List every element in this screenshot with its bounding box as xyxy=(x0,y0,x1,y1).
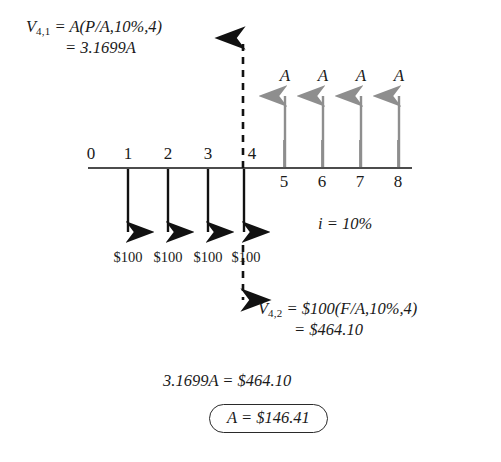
axis-label-period-5: 5 xyxy=(273,172,295,192)
axis-label-period-1: 1 xyxy=(117,144,139,164)
equation-v42-subscript: 4,2 xyxy=(268,307,282,319)
equation-v41-line1: V4,1 = A(P/A,10%,4) xyxy=(26,18,162,38)
axis-label-period-0: 0 xyxy=(80,144,102,164)
outflow-arrows xyxy=(128,169,244,232)
axis-label-period-7: 7 xyxy=(349,172,371,192)
equation-solve-line: 3.1699A = $464.10 xyxy=(163,372,291,391)
interest-rate-label: i = 10% xyxy=(318,215,372,234)
equation-v41-line2: = 3.1699A xyxy=(65,39,136,58)
axis-label-period-4: 4 xyxy=(241,144,263,164)
diagram-vector-layer xyxy=(0,0,501,462)
axis-label-period-8: 8 xyxy=(387,172,409,192)
inflow-label-period-7: A xyxy=(349,66,373,86)
outflow-label-period-4: $100 xyxy=(221,249,271,266)
cash-flow-diagram: V4,1 = A(P/A,10%,4) = 3.1699A 0 1 2 3 4 … xyxy=(0,0,501,462)
axis-label-period-2: 2 xyxy=(157,144,179,164)
equation-v42-rhs: = $100(F/A,10%,4) xyxy=(282,299,417,318)
axis-label-period-3: 3 xyxy=(197,144,219,164)
equation-v42-lhs: V xyxy=(258,299,268,318)
timeline-ticks-right xyxy=(284,140,398,168)
inflow-label-period-8: A xyxy=(387,66,411,86)
answer-box: A = $146.41 xyxy=(209,404,328,433)
inflow-label-period-6: A xyxy=(311,66,335,86)
equation-v42-line1: V4,2 = $100(F/A,10%,4) xyxy=(258,300,417,320)
axis-label-period-6: 6 xyxy=(311,172,333,192)
inflow-arrows xyxy=(285,96,399,167)
equation-v41-rhs: = A(P/A,10%,4) xyxy=(50,17,162,36)
equation-v41-subscript: 4,1 xyxy=(36,25,50,37)
equation-v42-line2: = $464.10 xyxy=(294,321,363,340)
inflow-label-period-5: A xyxy=(273,66,297,86)
equation-v41-lhs: V xyxy=(26,17,36,36)
